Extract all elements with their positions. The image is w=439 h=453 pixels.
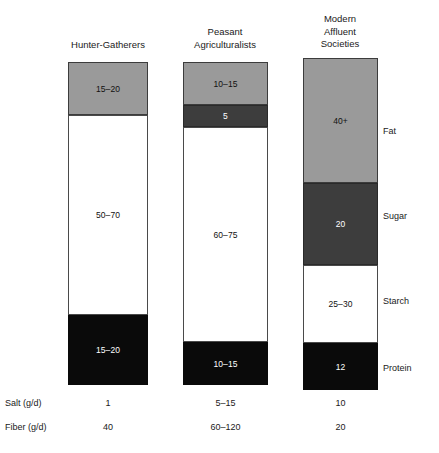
footer-value-fiber-peasant-agriculturalists: 60–120 [183, 422, 268, 432]
column-header-modern-affluent-societies: Modern Affluent Societies [280, 13, 400, 51]
legend-label-starch: Starch [383, 296, 409, 306]
legend-label-sugar: Sugar [383, 211, 407, 221]
footer-value-fiber-hunter-gatherers: 40 [68, 422, 148, 432]
segment-starch-hunter-gatherers: 50–70 [68, 115, 148, 315]
segment-fat-peasant-agriculturalists: 10–15 [183, 62, 268, 105]
footer-value-salt-peasant-agriculturalists: 5–15 [183, 398, 268, 408]
footer-value-salt-hunter-gatherers: 1 [68, 398, 148, 408]
footer-value-salt-modern-affluent-societies: 10 [303, 398, 378, 408]
segment-label: 40+ [333, 116, 348, 126]
bar-hunter-gatherers: 15–20 50–70 15–20 [68, 62, 148, 385]
segment-label: 50–70 [96, 210, 120, 220]
column-header-peasant-agriculturalists: Peasant Agriculturalists [165, 26, 285, 51]
segment-label: 10–15 [213, 359, 237, 369]
segment-starch-modern-affluent-societies: 25–30 [303, 265, 378, 343]
footer-label-fiber: Fiber (g/d) [5, 422, 47, 432]
segment-label: 12 [336, 362, 346, 372]
segment-fat-modern-affluent-societies: 40+ [303, 58, 378, 183]
segment-label: 20 [336, 219, 346, 229]
segment-label: 60–75 [213, 230, 237, 240]
footer-value-fiber-modern-affluent-societies: 20 [303, 422, 378, 432]
segment-label: 25–30 [328, 299, 352, 309]
footer-label-salt: Salt (g/d) [5, 398, 42, 408]
segment-protein-hunter-gatherers: 15–20 [68, 315, 148, 385]
column-header-hunter-gatherers: Hunter-Gatherers [48, 39, 168, 52]
segment-starch-peasant-agriculturalists: 60–75 [183, 127, 268, 342]
segment-protein-modern-affluent-societies: 12 [303, 343, 378, 390]
segment-label: 10–15 [213, 79, 237, 89]
bar-peasant-agriculturalists: 10–15 5 60–75 10–15 [183, 62, 268, 385]
stacked-bar-chart: Hunter-Gatherers Peasant Agriculturalist… [0, 0, 439, 453]
legend-label-fat: Fat [383, 126, 396, 136]
segment-label: 15–20 [96, 345, 120, 355]
bar-modern-affluent-societies: 40+ 20 25–30 12 [303, 58, 378, 390]
segment-label: 15–20 [96, 84, 120, 94]
segment-fat-hunter-gatherers: 15–20 [68, 62, 148, 115]
legend-label-protein: Protein [383, 363, 412, 373]
segment-sugar-modern-affluent-societies: 20 [303, 183, 378, 265]
segment-label: 5 [223, 111, 228, 121]
segment-protein-peasant-agriculturalists: 10–15 [183, 342, 268, 385]
segment-sugar-peasant-agriculturalists: 5 [183, 105, 268, 127]
